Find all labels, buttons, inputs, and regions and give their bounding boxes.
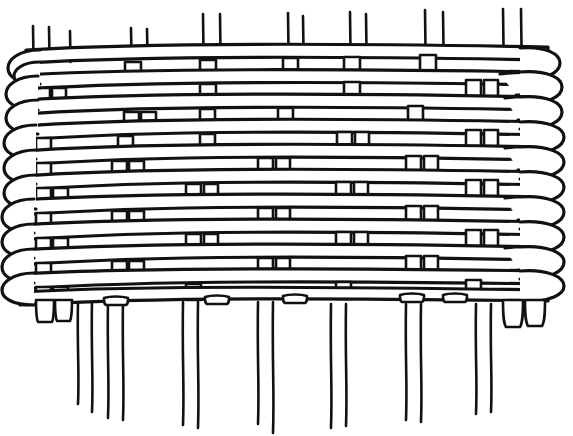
warp-end-bottom-10: [346, 304, 347, 426]
weave-diagram-svg: [0, 0, 573, 436]
warp-end-bottom-14: [491, 304, 492, 412]
warp-end-bottom-9: [331, 304, 332, 428]
warp-end-bottom-6: [198, 302, 199, 428]
figure-canvas: [0, 0, 573, 436]
warp-end-bottom-5: [183, 302, 184, 425]
warp-end-bottom-13: [476, 304, 477, 414]
warp-end-bottom-4: [123, 300, 124, 420]
warp-end-bottom-2: [92, 300, 93, 412]
warp-end-top-15: [521, 9, 522, 46]
warp-end-bottom-12: [421, 304, 422, 422]
warp-end-top-14: [503, 9, 504, 46]
warp-end-bottom-3: [108, 300, 109, 418]
warp-end-bottom-7: [258, 302, 259, 424]
warp-end-bottom-1: [78, 300, 79, 404]
warp-end-top-12: [425, 10, 426, 48]
warp-end-top-13: [443, 12, 444, 48]
warp-end-bottom-11: [406, 304, 407, 420]
warp-end-bottom-8: [273, 302, 274, 433]
